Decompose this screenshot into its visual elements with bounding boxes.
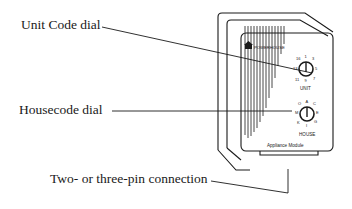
svg-text:A: A: [306, 99, 309, 104]
svg-text:7: 7: [313, 76, 316, 81]
svg-text:1: 1: [305, 54, 308, 59]
svg-text:16: 16: [296, 56, 301, 61]
svg-text:3: 3: [312, 56, 315, 61]
device-front-face: [241, 33, 333, 151]
svg-text:K: K: [297, 120, 300, 125]
device-base: [260, 151, 318, 155]
svg-text:G: G: [314, 119, 317, 124]
svg-text:C: C: [313, 101, 316, 106]
vent-grille: [245, 26, 284, 138]
svg-text:M: M: [295, 110, 298, 115]
unit-code-leader-line: [102, 27, 312, 73]
housecode-dial[interactable]: O A C M E K I G HOUSE: [295, 99, 319, 137]
device-mid-outline: [227, 20, 328, 148]
unit-code-dial[interactable]: 16 1 3 13 5 11 9 7 UNIT: [293, 54, 318, 91]
brand-logo: POWERHOUSE: [244, 41, 285, 50]
brand-text: POWERHOUSE: [254, 45, 285, 50]
svg-text:11: 11: [295, 77, 300, 82]
svg-text:5: 5: [315, 66, 318, 71]
house-dial-label: HOUSE: [299, 132, 315, 137]
appliance-module-diagram: POWERHOUSE 16 1 3 13 5 11 9 7 UNIT O A C…: [0, 0, 352, 209]
svg-text:9: 9: [305, 78, 308, 83]
svg-text:I: I: [306, 123, 307, 128]
unit-dial-label: UNIT: [300, 86, 311, 91]
model-label: Appliance Module: [267, 143, 304, 148]
svg-text:O: O: [298, 101, 301, 106]
svg-text:E: E: [316, 110, 319, 115]
pin-connection-leader-line: [211, 169, 288, 193]
